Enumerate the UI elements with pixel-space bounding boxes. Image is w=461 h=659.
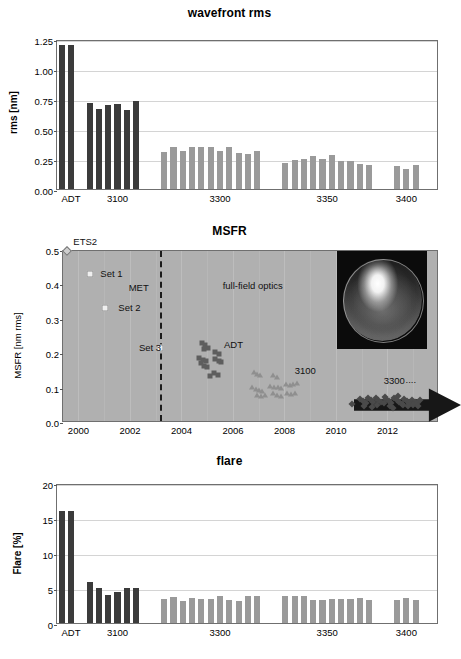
bar <box>124 588 130 623</box>
bar <box>292 596 298 623</box>
bar <box>217 151 223 189</box>
bar <box>161 599 167 624</box>
bar <box>105 595 111 623</box>
met-label: MET <box>129 282 149 293</box>
bar <box>114 592 120 624</box>
bar <box>357 598 363 623</box>
x-gridline-minor <box>207 251 208 421</box>
bar <box>403 598 409 623</box>
x-gridline <box>130 251 131 421</box>
x-tick-label: ADT <box>61 193 80 204</box>
bar <box>59 511 65 623</box>
data-point <box>102 305 109 312</box>
group-3100-label: 3100 <box>295 365 316 376</box>
y-tick-mark <box>54 625 57 626</box>
set2-label: Set 2 <box>118 302 140 313</box>
y-gridline <box>57 555 437 556</box>
y-tick-label: 0.0 <box>46 418 59 429</box>
bar <box>254 151 260 189</box>
y-tick-mark <box>54 161 57 162</box>
data-point <box>219 359 224 364</box>
data-point <box>62 246 72 256</box>
bar <box>310 600 316 623</box>
data-point <box>292 391 298 396</box>
y-tick-mark <box>54 131 57 132</box>
bar <box>180 151 186 189</box>
y-tick-mark <box>54 191 57 192</box>
optic-photo-inset <box>337 251 427 349</box>
data-point <box>262 392 268 397</box>
bar <box>87 103 93 189</box>
y-tick-label: 0.4 <box>46 280 59 291</box>
msfr-plot-area: 20002002200420062008201020120.00.10.20.3… <box>62 250 438 422</box>
x-tick-label: 2012 <box>377 425 398 436</box>
set3-label: Set 3 <box>139 342 161 353</box>
adt-label: ADT <box>224 339 243 350</box>
data-point <box>215 372 220 377</box>
optic-rim <box>343 259 424 343</box>
bar <box>236 153 242 189</box>
bar <box>105 105 111 189</box>
bar <box>292 160 298 189</box>
group-3300-label: 3300 <box>384 375 405 386</box>
y-tick-label: 15 <box>42 515 53 526</box>
y-tick-label: 1.25 <box>35 36 54 47</box>
x-tick-label: 2002 <box>119 425 140 436</box>
x-tick-label: 3350 <box>317 627 338 638</box>
bar <box>208 599 214 624</box>
set1-label: Set 1 <box>100 268 122 279</box>
bar <box>180 601 186 623</box>
y-tick-mark <box>54 555 57 556</box>
bar <box>189 147 195 189</box>
bar <box>96 588 102 623</box>
y-tick-mark <box>54 41 57 42</box>
x-gridline <box>78 251 79 421</box>
y-gridline <box>57 101 437 102</box>
bar <box>347 599 353 623</box>
y-tick-label: 0.50 <box>35 126 54 137</box>
y-tick-label: 0.75 <box>35 96 54 107</box>
y-tick-mark <box>54 71 57 72</box>
bar <box>319 159 325 189</box>
data-point <box>274 374 280 379</box>
y-tick-mark <box>60 389 63 390</box>
bar <box>161 152 167 189</box>
data-point <box>207 374 212 379</box>
bar <box>282 596 288 623</box>
bar <box>87 582 93 623</box>
bar <box>310 156 316 189</box>
x-gridline <box>181 251 182 421</box>
bar <box>245 596 251 623</box>
bar <box>68 511 74 623</box>
met-separator-line <box>160 251 162 421</box>
bar <box>226 600 232 623</box>
y-tick-label: 10 <box>42 550 53 561</box>
wavefront-y-axis-label: rms [nm] <box>8 91 19 134</box>
x-tick-label: 3300 <box>209 193 230 204</box>
flare-y-axis-label: Flare [%] <box>12 532 23 574</box>
flare-chart-title: flare <box>0 454 459 468</box>
bar <box>413 600 419 623</box>
bar <box>124 110 130 189</box>
bar <box>245 154 251 189</box>
bar <box>338 599 344 623</box>
bar <box>170 147 176 189</box>
bar <box>413 165 419 189</box>
wavefront-plot-area: 0.000.250.500.751.001.25ADT3100330033503… <box>56 40 438 190</box>
x-gridline <box>284 251 285 421</box>
data-point <box>87 271 94 278</box>
y-tick-label: 0.3 <box>46 314 59 325</box>
bar <box>236 601 242 623</box>
bar <box>133 588 139 623</box>
x-tick-label: 3100 <box>107 627 128 638</box>
y-tick-mark <box>60 285 63 286</box>
wavefront-chart-title: wavefront rms <box>0 6 459 20</box>
bar <box>217 596 223 623</box>
y-tick-label: 0.25 <box>35 156 54 167</box>
y-tick-mark <box>60 354 63 355</box>
bar <box>96 109 102 189</box>
msfr-chart-title: MSFR <box>0 224 459 238</box>
y-tick-label: 5 <box>48 585 53 596</box>
bar <box>347 161 353 189</box>
y-tick-mark <box>54 485 57 486</box>
